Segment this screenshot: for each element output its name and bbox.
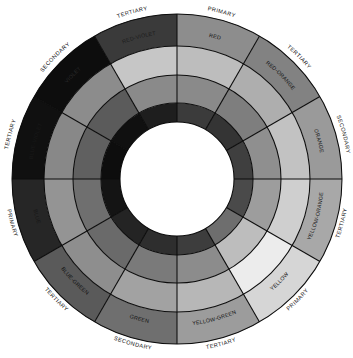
color-wheel-figure: REDRED-ORANGEORANGEYELLOW-ORANGEYELLOWYE… (0, 0, 353, 358)
color-wheel-svg: REDRED-ORANGEORANGEYELLOW-ORANGEYELLOWYE… (0, 0, 353, 358)
wheel-hub (120, 122, 234, 236)
